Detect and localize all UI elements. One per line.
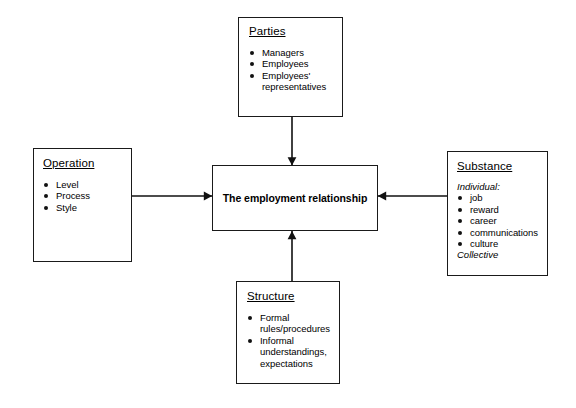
node-parties-list: Managers Employees Employees' representa…: [249, 47, 342, 93]
list-item: Employees: [249, 58, 342, 69]
node-substance-list: job reward career communications culture: [457, 192, 547, 249]
node-operation-title: Operation: [43, 157, 131, 170]
node-substance-body: Individual: job reward career communicat…: [457, 181, 547, 261]
list-item: Managers: [249, 47, 342, 58]
list-item: communications: [457, 227, 547, 238]
node-parties-title: Parties: [249, 25, 342, 38]
node-structure-list: Formal rules/procedures Informal underst…: [247, 312, 339, 369]
list-item: Process: [43, 190, 131, 201]
center-label: The employment relationship: [223, 192, 368, 204]
node-substance-title: Substance: [457, 160, 547, 173]
list-item: job: [457, 192, 547, 203]
list-item: career: [457, 215, 547, 226]
list-item: Employees' representatives: [249, 70, 342, 93]
node-substance-lead: Individual:: [457, 181, 547, 192]
node-employment-relationship[interactable]: The employment relationship: [212, 165, 378, 231]
node-operation[interactable]: Operation Level Process Style: [33, 148, 132, 262]
node-substance[interactable]: Substance Individual: job reward career …: [447, 151, 548, 276]
node-operation-list: Level Process Style: [43, 179, 131, 213]
list-item: Level: [43, 179, 131, 190]
list-item: reward: [457, 204, 547, 215]
node-substance-trail: Collective: [457, 249, 547, 260]
node-structure-title: Structure: [247, 290, 339, 303]
list-item: culture: [457, 238, 547, 249]
list-item: Style: [43, 202, 131, 213]
list-item: Informal understandings, expectations: [247, 335, 339, 369]
list-item: Formal rules/procedures: [247, 312, 339, 335]
node-structure[interactable]: Structure Formal rules/procedures Inform…: [236, 281, 340, 384]
node-parties[interactable]: Parties Managers Employees Employees' re…: [238, 17, 343, 117]
